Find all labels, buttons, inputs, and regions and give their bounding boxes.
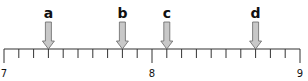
marker-b: b: [116, 5, 128, 49]
marker-d: d: [250, 5, 262, 49]
down-arrow-icon: [250, 22, 262, 49]
down-arrow-icon: [161, 22, 173, 49]
marker-a: a: [42, 5, 54, 49]
marker-label: a: [44, 5, 53, 21]
marker-label: b: [117, 5, 127, 21]
tick-label-9: 9: [297, 68, 303, 79]
marker-label: d: [251, 5, 261, 21]
marker-c: c: [161, 5, 173, 49]
down-arrow-icon: [116, 22, 128, 49]
tick-label-7: 7: [1, 68, 7, 79]
down-arrow-icon: [42, 22, 54, 49]
tick-label-8: 8: [149, 68, 155, 79]
marker-label: c: [163, 5, 171, 21]
number-line-diagram: 789abcd: [0, 0, 308, 81]
